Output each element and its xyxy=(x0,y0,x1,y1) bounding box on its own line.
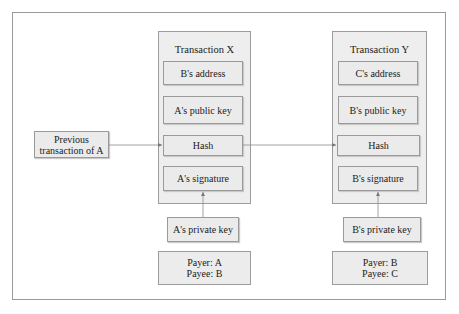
connector-arrows xyxy=(0,0,459,314)
